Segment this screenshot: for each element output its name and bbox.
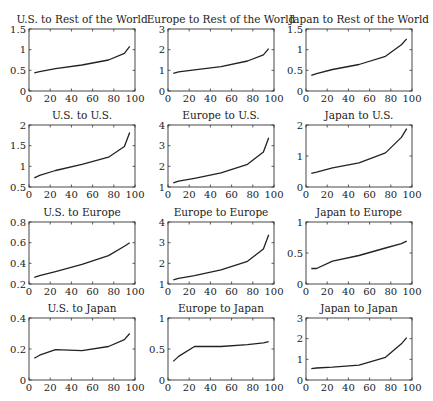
- y-tick-label: 0: [159, 375, 165, 386]
- x-tick-label: 100: [264, 382, 283, 393]
- data-series-line: [34, 132, 129, 178]
- y-tick-label: 0.5: [149, 344, 165, 355]
- x-tick-label: 40: [342, 93, 355, 104]
- x-tick-label: 60: [363, 93, 376, 104]
- y-tick-label: 3: [297, 313, 303, 324]
- x-tick-label: 0: [26, 382, 32, 393]
- axes-frame: [29, 318, 135, 380]
- chart-title: Europe to Rest of the World: [147, 13, 296, 25]
- x-tick-label: 40: [65, 382, 78, 393]
- y-tick-label: 0: [297, 375, 303, 386]
- chart-title: Europe to Europe: [174, 206, 269, 218]
- x-tick-label: 60: [225, 189, 238, 200]
- y-tick-label: 2: [159, 258, 165, 269]
- y-tick-label: 4: [159, 120, 165, 131]
- x-tick-label: 20: [183, 286, 196, 297]
- x-tick-label: 80: [384, 189, 397, 200]
- y-tick-label: 0.4: [10, 313, 26, 324]
- y-tick-label: 1.5: [287, 24, 303, 35]
- chart-panel: Japan to Europe02040608010000.51: [287, 206, 421, 297]
- x-tick-label: 100: [402, 286, 421, 297]
- x-tick-label: 100: [402, 382, 421, 393]
- data-series-line: [34, 46, 129, 72]
- data-series-line: [311, 129, 406, 174]
- y-tick-label: 0: [159, 86, 165, 97]
- y-tick-label: 0: [297, 86, 303, 97]
- chart-panel: U.S. to Europe0204060801000.20.40.60.8: [10, 206, 144, 297]
- x-tick-label: 60: [86, 286, 99, 297]
- x-tick-label: 60: [225, 286, 238, 297]
- chart-panel: Europe to Japan02040608010000.51: [149, 302, 283, 393]
- x-tick-label: 100: [264, 93, 283, 104]
- x-tick-label: 80: [107, 189, 120, 200]
- chart-title: Europe to U.S.: [182, 109, 259, 121]
- chart-title: U.S. to Rest of the World: [16, 13, 148, 25]
- chart-panel: Europe to U.S.0204060801001234: [159, 109, 284, 200]
- axes-frame: [306, 29, 412, 91]
- y-tick-label: 1: [297, 354, 303, 365]
- x-tick-label: 40: [342, 286, 355, 297]
- x-tick-label: 40: [342, 382, 355, 393]
- x-tick-label: 100: [264, 286, 283, 297]
- y-tick-label: 2: [159, 44, 165, 55]
- y-tick-label: 4: [159, 217, 165, 228]
- y-tick-label: 1.5: [10, 24, 26, 35]
- y-tick-label: 0: [20, 375, 26, 386]
- x-tick-label: 80: [246, 286, 259, 297]
- x-tick-label: 100: [264, 189, 283, 200]
- y-tick-label: 1: [297, 44, 303, 55]
- chart-title: Japan to U.S.: [324, 109, 394, 121]
- axes-frame: [29, 125, 135, 187]
- x-tick-label: 60: [363, 286, 376, 297]
- x-tick-label: 20: [321, 189, 334, 200]
- y-tick-label: 3: [159, 140, 165, 151]
- x-tick-label: 0: [26, 286, 32, 297]
- chart-panel: U.S. to Japan02040608010000.20.4: [10, 302, 144, 393]
- axes-frame: [168, 29, 274, 91]
- chart-title: Japan to Rest of the World: [288, 13, 429, 25]
- x-tick-label: 100: [402, 93, 421, 104]
- chart-title: U.S. to Europe: [43, 206, 120, 218]
- chart-grid-figure: U.S. to Rest of the World02040608010000.…: [0, 0, 433, 401]
- x-tick-label: 20: [183, 189, 196, 200]
- y-tick-label: 0: [297, 182, 303, 193]
- x-tick-label: 80: [107, 93, 120, 104]
- y-tick-label: 2: [20, 120, 26, 131]
- data-series-line: [173, 49, 268, 74]
- data-series-line: [173, 138, 268, 183]
- data-series-line: [311, 338, 406, 369]
- data-series-line: [173, 235, 268, 280]
- y-tick-label: 1: [297, 217, 303, 228]
- data-series-line: [34, 334, 129, 359]
- x-tick-label: 40: [65, 93, 78, 104]
- y-tick-label: 0.5: [287, 248, 303, 259]
- x-tick-label: 80: [246, 382, 259, 393]
- data-series-line: [311, 241, 406, 268]
- x-tick-label: 60: [86, 189, 99, 200]
- x-tick-label: 60: [86, 382, 99, 393]
- x-tick-label: 40: [204, 93, 217, 104]
- x-tick-label: 80: [246, 189, 259, 200]
- x-tick-label: 0: [165, 189, 171, 200]
- chart-title: U.S. to Japan: [48, 302, 117, 314]
- x-tick-label: 60: [86, 93, 99, 104]
- y-tick-label: 1: [159, 182, 165, 193]
- y-tick-label: 0.6: [10, 237, 26, 248]
- chart-title: Japan to Europe: [315, 206, 402, 218]
- y-tick-label: 1: [297, 151, 303, 162]
- axes-frame: [306, 222, 412, 284]
- chart-title: U.S. to U.S.: [52, 109, 112, 121]
- x-tick-label: 20: [44, 93, 57, 104]
- x-tick-label: 80: [107, 286, 120, 297]
- x-tick-label: 0: [165, 382, 171, 393]
- chart-panel: Europe to Rest of the World0204060801000…: [147, 13, 296, 104]
- y-tick-label: 1: [20, 44, 26, 55]
- y-tick-label: 2: [159, 161, 165, 172]
- data-series-line: [173, 342, 268, 362]
- y-tick-label: 0.8: [10, 217, 26, 228]
- x-tick-label: 40: [65, 189, 78, 200]
- y-tick-label: 0.5: [10, 182, 26, 193]
- y-tick-label: 1: [159, 313, 165, 324]
- x-tick-label: 40: [204, 286, 217, 297]
- x-tick-label: 60: [363, 382, 376, 393]
